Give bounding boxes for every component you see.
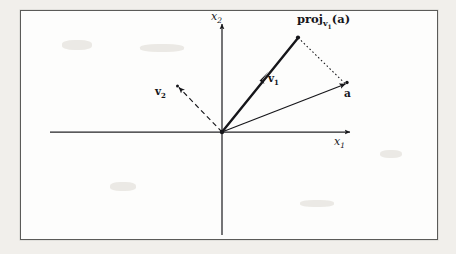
scan-speck	[140, 44, 184, 52]
vector-a-label-text: a	[344, 87, 351, 99]
projection-label: projv1(a)	[297, 14, 350, 30]
projection-label-prefix: proj	[297, 12, 323, 26]
y-axis-label-sub: 2	[217, 16, 222, 25]
vector-v1-label-sub: 1	[274, 78, 279, 87]
x-axis-label: x1	[334, 136, 345, 150]
scan-speck	[300, 200, 334, 207]
vector-v1-label: v1	[268, 73, 279, 86]
vector-a-label: a	[344, 88, 351, 99]
scan-speck	[380, 150, 402, 158]
figure-page: x2 x1 v1 v2 a projv1(a)	[0, 0, 456, 254]
projection-label-arg: (a)	[332, 12, 350, 26]
x-axis-label-sub: 1	[340, 141, 345, 150]
scan-speck	[62, 40, 92, 50]
y-axis-label: x2	[211, 11, 222, 25]
vector-v2-label: v2	[155, 86, 166, 99]
vector-v2-label-sub: 2	[161, 91, 166, 100]
scan-speck	[110, 182, 136, 191]
projection-label-subscript: v1	[323, 18, 332, 28]
